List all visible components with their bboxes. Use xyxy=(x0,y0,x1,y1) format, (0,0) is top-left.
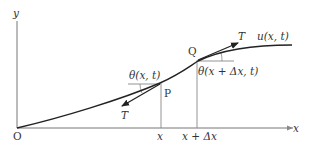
point-p-label: P xyxy=(164,87,171,99)
string-tension-diagram: y x O u(x, t) P Q θ(x, t) θ(x + Δx, t) T… xyxy=(0,0,310,149)
x-axis-label: x xyxy=(293,122,299,134)
angle-label-q: θ(x + Δx, t) xyxy=(198,65,258,77)
tension-label-p: T xyxy=(121,109,129,121)
point-q-label: Q xyxy=(188,45,197,57)
origin-label: O xyxy=(13,130,22,142)
angle-label-p: θ(x, t) xyxy=(129,69,160,81)
angle-arc-q xyxy=(221,53,222,61)
angle-arc-p xyxy=(140,84,142,93)
y-axis-label: y xyxy=(12,7,20,19)
tension-label-q: T xyxy=(238,30,246,42)
tension-arrow-q xyxy=(198,43,238,60)
curve-label: u(x, t) xyxy=(257,30,289,42)
x-tick-label-q: x + Δx xyxy=(182,130,217,142)
x-tick-label-p: x xyxy=(157,130,163,142)
